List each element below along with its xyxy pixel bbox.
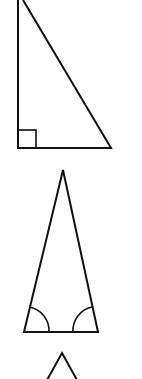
right-base-angle-arc-icon [73, 307, 92, 332]
right-triangle-outline [18, 0, 111, 148]
isosceles-triangle-outline [24, 170, 98, 332]
partial-triangle-outline [47, 353, 77, 379]
isosceles-triangle [24, 170, 98, 332]
left-base-angle-arc-icon [29, 307, 49, 332]
right-triangle [18, 0, 111, 148]
partial-triangle [47, 353, 77, 379]
triangles-diagram [0, 0, 142, 379]
right-angle-marker-icon [18, 130, 36, 148]
